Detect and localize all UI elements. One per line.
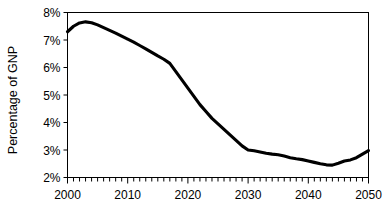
x-tick-label: 2010	[114, 188, 141, 202]
y-tick-label: 5%	[43, 89, 61, 103]
y-tick-label: 3%	[43, 144, 61, 158]
y-axis-title: Percentage of GNP	[6, 46, 20, 154]
chart-container: 8%7%6%5%4%3%2% 200020102020203020402050 …	[0, 0, 387, 215]
y-tick-label: 7%	[43, 34, 61, 48]
x-tick-label: 2050	[355, 188, 382, 202]
y-tick-label: 6%	[43, 61, 61, 75]
y-tick-label: 2%	[43, 171, 61, 185]
x-tick-label: 2030	[235, 188, 262, 202]
y-tick-label: 4%	[43, 116, 61, 130]
y-tick-label: 8%	[43, 6, 61, 20]
x-tick-label: 2000	[54, 188, 81, 202]
line-chart: 8%7%6%5%4%3%2% 200020102020203020402050 …	[0, 0, 387, 215]
x-tick-label: 2020	[175, 188, 202, 202]
x-tick-label: 2040	[295, 188, 322, 202]
